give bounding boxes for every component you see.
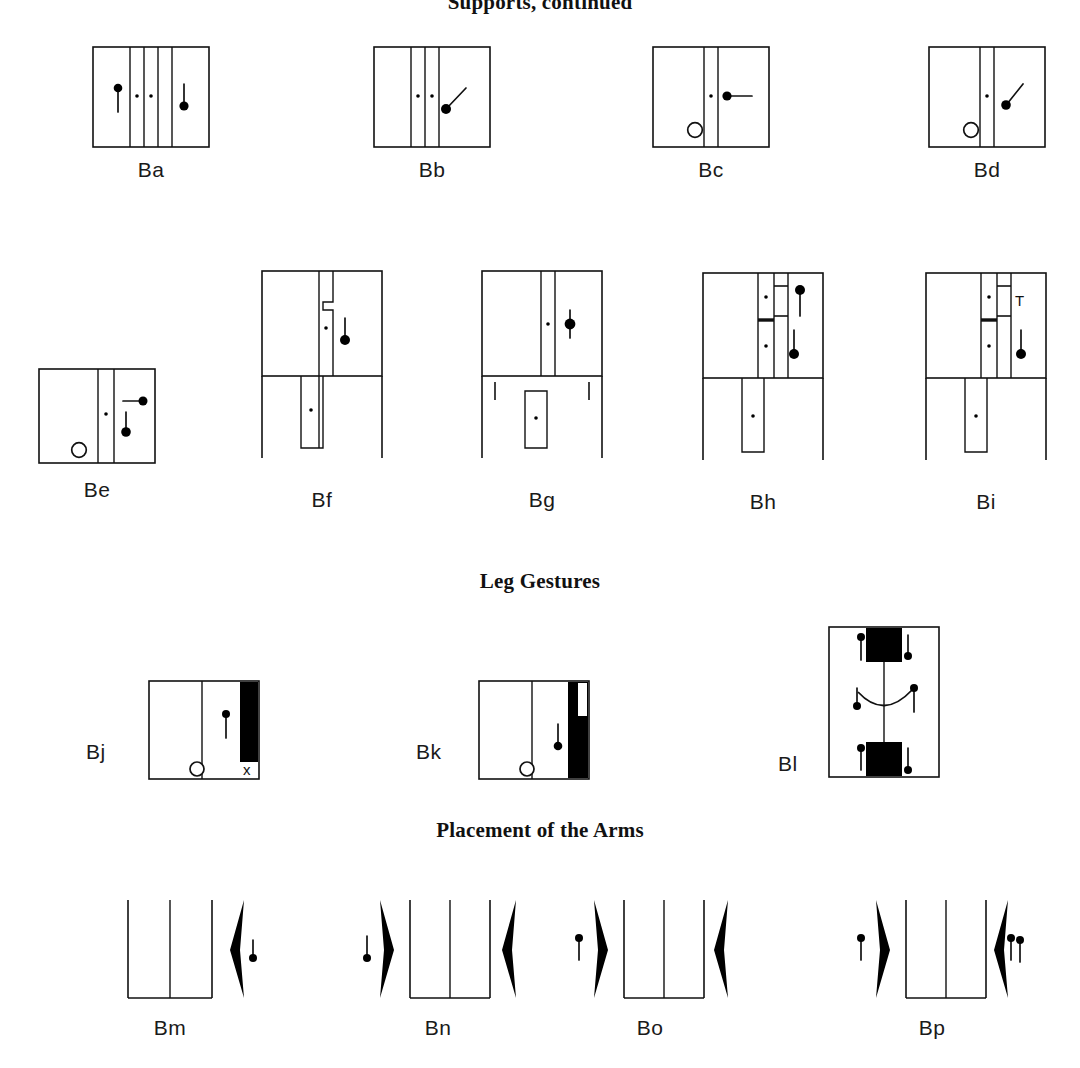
figure-Bc: Bc [652,46,770,148]
figure-Ba: Ba [92,46,210,148]
figure-Bk-staff [478,680,590,780]
figure-Bf: Bf [261,270,383,460]
figure-Bh-staff [702,272,824,462]
figure-label-Ba: Ba [138,158,165,182]
figure-Bm: Bm [122,898,262,1006]
figure-label-Bm: Bm [154,1016,187,1040]
figure-Bb-staff [373,46,491,148]
figure-label-Bk: Bk [416,740,442,764]
figure-Bj: x Bj [148,680,260,780]
figure-Bg: Bg [481,270,603,460]
figure-Bn: Bn [358,898,518,1006]
figure-label-Bg: Bg [529,488,556,512]
t-sign-glyph: T [1015,292,1024,309]
figure-Bp: Bp [852,898,1024,1006]
figure-label-Bb: Bb [419,158,446,182]
figure-Bi-staff: T [925,272,1047,462]
figure-Bl: Bl [828,626,940,778]
section-heading-leg-gestures: Leg Gestures [480,569,600,594]
figure-label-Bp: Bp [919,1016,946,1040]
cancel-x-glyph: x [243,761,251,778]
figure-Bl-staff [828,626,940,778]
figure-Be-staff [38,368,156,464]
notation-page: Supports, continued Leg Gestures Placeme… [0,0,1080,1068]
figure-label-Bd: Bd [974,158,1001,182]
figure-label-Bf: Bf [312,488,333,512]
section-heading-supports: Supports, continued [448,0,633,15]
figure-Bm-staff [122,898,262,1006]
figure-Bg-staff [481,270,603,460]
figure-Be: Be [38,368,156,464]
figure-Bb: Bb [373,46,491,148]
figure-label-Bc: Bc [698,158,724,182]
figure-Bd: Bd [928,46,1046,148]
section-heading-placement-of-arms: Placement of the Arms [436,818,644,843]
figure-Ba-staff [92,46,210,148]
figure-Bh: Bh [702,272,824,462]
figure-Bj-staff: x [148,680,260,780]
figure-Bo-staff [570,898,730,1006]
figure-Bo: Bo [570,898,730,1006]
figure-Bp-staff [852,898,1024,1006]
figure-label-Be: Be [84,478,111,502]
figure-Bn-staff [358,898,518,1006]
figure-Bc-staff [652,46,770,148]
figure-label-Bl: Bl [778,752,798,776]
figure-label-Bj: Bj [86,740,106,764]
figure-label-Bn: Bn [425,1016,452,1040]
figure-Bi: T Bi [925,272,1047,462]
figure-Bd-staff [928,46,1046,148]
figure-label-Bh: Bh [750,490,777,514]
figure-label-Bo: Bo [637,1016,664,1040]
figure-label-Bi: Bi [976,490,996,514]
figure-Bk: Bk [478,680,590,780]
figure-Bf-staff [261,270,383,460]
